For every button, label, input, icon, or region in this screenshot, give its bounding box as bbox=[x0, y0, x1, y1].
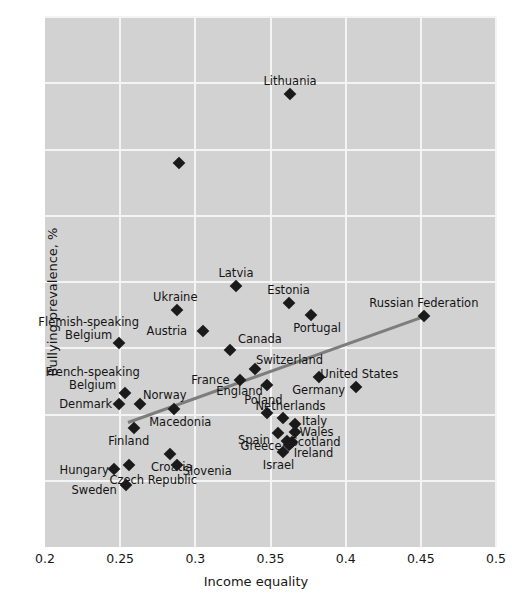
x-axis-tick-label: 0.4 bbox=[336, 553, 356, 566]
x-axis-label: Income equality bbox=[0, 574, 512, 589]
axis-ticks-layer: 05101520253035400.20.250.30.350.40.450.5 bbox=[0, 0, 512, 603]
x-axis-tick-label: 0.25 bbox=[106, 553, 134, 566]
x-axis-tick-label: 0.2 bbox=[35, 553, 55, 566]
x-axis-tick-label: 0.45 bbox=[407, 553, 435, 566]
y-axis-label: Bullying prevalence, % bbox=[45, 227, 60, 376]
x-axis-tick-label: 0.35 bbox=[257, 553, 285, 566]
x-axis-tick-label: 0.5 bbox=[486, 553, 506, 566]
x-axis-tick-label: 0.3 bbox=[185, 553, 205, 566]
bullying-income-equality-scatter-chart: LithuaniaLatviaEstoniaUkrainePortugalRus… bbox=[0, 0, 512, 603]
